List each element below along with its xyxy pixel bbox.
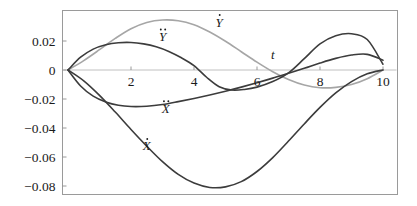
overdot-icon — [219, 14, 221, 16]
curve-label-Xddot: X — [161, 100, 171, 115]
derivative-line-chart: 2468100.020−0.02−0.04−0.06−0.08 XXYY t — [0, 0, 417, 206]
y-tick-label--0.04: −0.04 — [24, 121, 55, 136]
overdot-icon-1 — [163, 100, 165, 102]
y-tick-label--0.02: −0.02 — [24, 92, 55, 107]
x-tick-label-2: 2 — [128, 74, 135, 89]
curve-label-Xdot: X — [142, 138, 152, 153]
chart-figure: 2468100.020−0.02−0.04−0.06−0.08 XXYY t — [0, 0, 417, 206]
curve-label-letter-Xddot: X — [161, 101, 171, 116]
y-tick-label--0.06: −0.06 — [24, 150, 55, 165]
overdot-icon-1 — [160, 29, 162, 31]
annotations-layer: t — [271, 47, 275, 62]
y-tick-label-0.02: 0.02 — [32, 34, 56, 49]
overdot-icon — [146, 138, 148, 140]
x-tick-label-4: 4 — [191, 74, 198, 89]
curve-label-letter-Xdot: X — [142, 138, 152, 153]
overdot-icon-2 — [167, 100, 169, 102]
x-tick-label-6: 6 — [254, 74, 261, 89]
overdot-icon-2 — [164, 29, 166, 31]
y-tick-label--0.08: −0.08 — [24, 179, 55, 194]
y-tick-label-0: 0 — [49, 63, 56, 78]
annotation-x-axis-label: t — [271, 47, 275, 62]
x-tick-label-8: 8 — [317, 74, 324, 89]
x-tick-label-10: 10 — [376, 74, 390, 89]
